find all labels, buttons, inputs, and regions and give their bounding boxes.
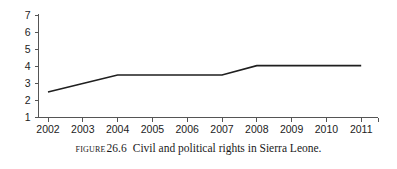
y-axis-tick-label: 6 (25, 26, 31, 38)
data-series-line (48, 66, 361, 92)
chart-plot-area: 1234567200220032004200520062007200820092… (0, 0, 397, 138)
x-axis-tick-label: 2004 (106, 123, 130, 135)
y-axis-tick-label: 4 (25, 60, 31, 72)
x-axis-tick-label: 2010 (315, 123, 339, 135)
y-axis-tick-label: 2 (25, 94, 31, 106)
caption-text: Civil and political rights in Sierra Leo… (133, 142, 322, 154)
x-axis-tick-label: 2007 (210, 123, 234, 135)
caption-number: 26.6 (107, 142, 127, 154)
y-axis-tick-label: 3 (25, 77, 31, 89)
x-axis-tick-label: 2003 (71, 123, 95, 135)
x-axis-tick-label: 2011 (350, 123, 373, 135)
y-axis-tick-label: 5 (25, 43, 31, 55)
line-chart: 1234567200220032004200520062007200820092… (0, 0, 397, 138)
x-axis-tick-label: 2008 (245, 123, 269, 135)
y-axis-tick-label: 7 (25, 9, 31, 21)
y-axis-tick-label: 1 (25, 111, 31, 123)
x-axis-tick-label: 2009 (280, 123, 304, 135)
figure-container: 1234567200220032004200520062007200820092… (0, 0, 397, 169)
caption-prefix: Figure (76, 142, 106, 154)
x-axis-tick-label: 2002 (36, 123, 60, 135)
figure-caption: Figure26.6Civil and political rights in … (0, 142, 397, 154)
x-axis-tick-label: 2005 (141, 123, 165, 135)
x-axis-tick-label: 2006 (176, 123, 200, 135)
